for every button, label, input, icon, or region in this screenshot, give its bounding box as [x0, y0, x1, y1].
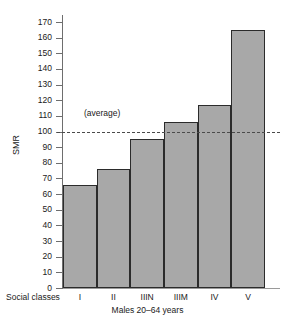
bar-V [231, 30, 265, 288]
x-axis-label-IV: IV [198, 292, 232, 302]
average-reference-line [57, 132, 280, 133]
y-axis-tick-label-text: 140 [22, 64, 52, 73]
y-axis-tick-label: 60 [22, 190, 52, 199]
y-axis-tick-label: 10 [22, 268, 52, 277]
y-axis-tick [56, 178, 63, 179]
y-axis-tick [56, 22, 63, 23]
y-axis-tick-label-text: 40 [22, 221, 52, 230]
y-axis-tick-label: 100 [22, 127, 52, 136]
y-axis-tick [56, 194, 63, 195]
y-axis-tick-label-text: 120 [22, 96, 52, 105]
bar-IIIN [130, 139, 164, 288]
y-axis-tick-label-text: 30 [22, 237, 52, 246]
y-axis-tick [56, 38, 63, 39]
y-axis-tick [56, 225, 63, 226]
y-axis-tick-label-text: 170 [22, 18, 52, 27]
y-axis-tick [56, 163, 63, 164]
y-axis-tick-label-text: 20 [22, 252, 52, 261]
y-axis-tick-label: 30 [22, 237, 52, 246]
y-axis-tick [56, 241, 63, 242]
y-axis-tick-label-text: 160 [22, 33, 52, 42]
y-axis-tick [56, 288, 63, 289]
bar-I [63, 185, 97, 288]
x-axis-label-IIIN: IIIN [130, 292, 164, 302]
y-axis-tick-label-text: 50 [22, 205, 52, 214]
y-axis-tick-label: 110 [22, 111, 52, 120]
y-axis-tick [56, 85, 63, 86]
y-axis-tick-label: 150 [22, 49, 52, 58]
y-axis-tick-label-text: 0 [22, 284, 52, 293]
average-line-label: (average) [84, 108, 120, 118]
x-axis-label-I: I [63, 292, 97, 302]
y-axis-tick [56, 147, 63, 148]
x-axis-title: Males 20–64 years [0, 305, 295, 315]
x-axis-label-IIIM: IIIM [164, 292, 198, 302]
y-axis-tick-label-text: 90 [22, 143, 52, 152]
y-axis-tick [56, 210, 63, 211]
y-axis-tick-label: 130 [22, 80, 52, 89]
bar-II [97, 169, 131, 288]
bar-IIIM [164, 122, 198, 288]
y-axis-tick-label: 20 [22, 252, 52, 261]
y-axis-tick-label: 50 [22, 205, 52, 214]
y-axis-tick-label-text: 60 [22, 190, 52, 199]
y-axis-tick-label-text: 70 [22, 174, 52, 183]
x-axis-label-V: V [231, 292, 265, 302]
y-axis-tick-label-text: 100 [22, 127, 52, 136]
y-axis-tick-label: 90 [22, 143, 52, 152]
y-axis-tick [56, 257, 63, 258]
y-axis-tick-label: 70 [22, 174, 52, 183]
y-axis-tick [56, 272, 63, 273]
plot-area [63, 22, 265, 288]
y-axis-tick-label: 160 [22, 33, 52, 42]
x-axis-category-prefix: Social classes [6, 292, 60, 302]
y-axis-tick-label: 170 [22, 18, 52, 27]
smr-bar-chart: 0102030405060708090100110120130140150160… [0, 0, 295, 315]
y-axis-tick-label: 120 [22, 96, 52, 105]
y-axis-tick-label-text: 80 [22, 158, 52, 167]
y-axis-tick-label: 40 [22, 221, 52, 230]
x-axis-spine [62, 288, 280, 289]
y-axis-tick [56, 116, 63, 117]
y-axis-tick [56, 69, 63, 70]
y-axis-tick-label-text: 10 [22, 268, 52, 277]
y-axis-tick-label-text: 150 [22, 49, 52, 58]
x-axis-label-II: II [97, 292, 131, 302]
y-axis-tick [56, 53, 63, 54]
y-axis-tick-label: 140 [22, 64, 52, 73]
y-axis-tick-label-text: 110 [22, 111, 52, 120]
y-axis-tick-label: 80 [22, 158, 52, 167]
y-axis-tick-label-text: 130 [22, 80, 52, 89]
y-axis-title: SMR [11, 125, 21, 165]
y-axis-tick [56, 100, 63, 101]
